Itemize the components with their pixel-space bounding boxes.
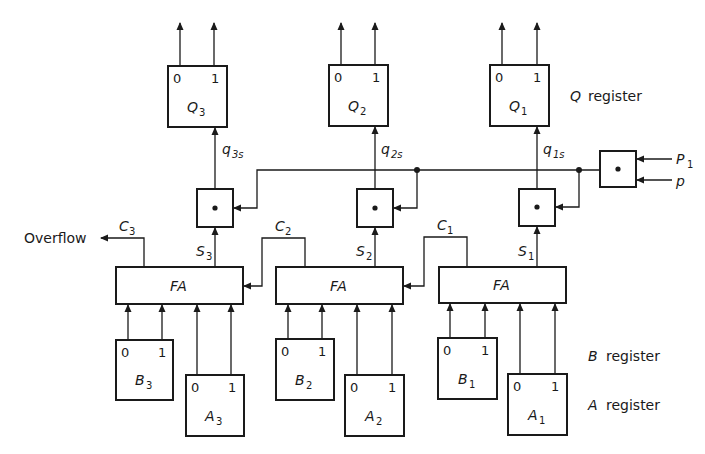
fa3-label: FA: [170, 278, 187, 294]
q3-bit1: 1: [211, 71, 219, 86]
q3s-sub: 3s: [232, 149, 244, 160]
q3-bit0: 0: [173, 71, 181, 86]
a3-bit1: 1: [228, 380, 236, 395]
s1-sub: 1: [528, 251, 534, 262]
p-label: p: [675, 173, 685, 189]
q1-sub: 1: [521, 106, 527, 117]
a3-bit0: 0: [191, 380, 199, 395]
a2-sub: 2: [376, 416, 382, 427]
b1-name: B: [458, 371, 468, 387]
fa2-label: FA: [330, 278, 347, 294]
q1-bit1: 1: [533, 70, 541, 85]
a3-name: A: [204, 408, 215, 424]
c1-label: C: [437, 217, 447, 233]
c2-label: C: [275, 218, 285, 234]
a1-sub: 1: [539, 415, 545, 426]
q1s-sub: 1s: [553, 149, 565, 160]
b3-bit0: 0: [121, 345, 129, 360]
a1-bit1: 1: [551, 379, 559, 394]
b2-bit1: 1: [318, 344, 326, 359]
b1-bit0: 0: [443, 343, 451, 358]
a-register-label: register: [606, 397, 660, 413]
q2-sub: 2: [360, 106, 366, 117]
control-bus: P 1 p: [234, 151, 693, 208]
a3-sub: 3: [216, 416, 222, 427]
control-to-and1: [556, 170, 579, 207]
a2-bit1: 1: [388, 380, 396, 395]
s3-sub: 3: [206, 251, 212, 262]
q2-cell: 0 1 Q 2: [329, 23, 388, 126]
a-register: 0 1 A 3 0 1 A 2 0 1 A 1 A register: [186, 304, 660, 436]
b2-bit0: 0: [281, 344, 289, 359]
c1-sub: 1: [447, 225, 453, 236]
b-register-label: register: [606, 348, 660, 364]
q2s-sub: 2s: [391, 149, 403, 160]
fa1-label: FA: [493, 277, 510, 293]
q1-name: Q: [509, 98, 520, 114]
junction-dot-icon: [414, 167, 420, 173]
c3-sub: 3: [129, 226, 135, 237]
a-register-var: A: [587, 397, 598, 413]
b2-sub: 2: [306, 380, 312, 391]
q-register-label: register: [588, 88, 642, 104]
q3s-label: q: [222, 141, 231, 157]
p1-label: P: [676, 151, 685, 167]
b1-sub: 1: [469, 379, 475, 390]
and2-dot-icon: [372, 205, 377, 210]
a2-bit0: 0: [350, 380, 358, 395]
q1s-label: q: [543, 141, 552, 157]
b3-name: B: [135, 372, 145, 388]
q2-bit0: 0: [334, 70, 342, 85]
s2-sub: 2: [366, 251, 372, 262]
c2-sub: 2: [285, 226, 291, 237]
q1-bit0: 0: [495, 70, 503, 85]
junction-dot-icon: [576, 167, 582, 173]
a1-bit0: 0: [513, 379, 521, 394]
adder-diagram: 0 1 Q 3 0 1 Q 2 0 1 Q 1 Q register: [0, 0, 705, 454]
overflow-label: Overflow: [24, 230, 87, 246]
and3-dot-icon: [212, 205, 217, 210]
q1-cell: 0 1 Q 1: [490, 23, 549, 126]
q-register: 0 1 Q 3 0 1 Q 2 0 1 Q 1 Q register: [168, 23, 642, 127]
full-adders: FA S 3 C 3 Overflow FA S 2 C 2 FA S 1 C …: [24, 217, 566, 304]
a1-name: A: [527, 407, 538, 423]
s1-label: S: [518, 243, 527, 259]
b3-sub: 3: [146, 380, 152, 391]
b3-bit1: 1: [158, 345, 166, 360]
b1-bit1: 1: [481, 343, 489, 358]
q2-name: Q: [348, 98, 359, 114]
s3-label: S: [196, 243, 205, 259]
p1-sub: 1: [687, 159, 693, 170]
and1-dot-icon: [534, 204, 539, 209]
q3-name: Q: [187, 99, 198, 115]
q2-bit1: 1: [372, 70, 380, 85]
q3-cell: 0 1 Q 3: [168, 23, 227, 127]
a2-name: A: [364, 408, 375, 424]
b2-name: B: [295, 372, 305, 388]
control-to-and2: [394, 170, 417, 208]
q2s-label: q: [381, 141, 390, 157]
c3-label: C: [119, 218, 129, 234]
and-gates: q 3s q 2s q 1s: [197, 127, 565, 227]
q3-sub: 3: [199, 107, 205, 118]
b-register-var: B: [588, 348, 598, 364]
c3-overflow-wire: [101, 238, 144, 267]
control-dot-icon: [615, 166, 620, 171]
s2-label: S: [356, 243, 365, 259]
q-register-var: Q: [570, 88, 581, 104]
